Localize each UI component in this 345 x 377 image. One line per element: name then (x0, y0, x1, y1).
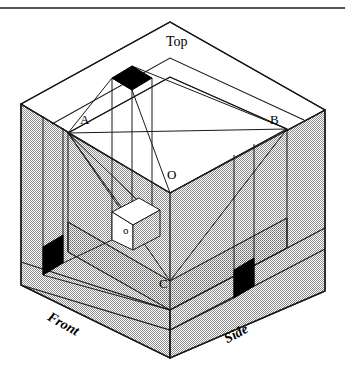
figure-canvas: Top Front Side A B O o C (0, 0, 345, 377)
point-label-a: A (80, 113, 89, 126)
point-label-b: B (270, 113, 279, 126)
point-label-o-outer: O (167, 168, 176, 181)
face-label-top: Top (166, 35, 188, 49)
point-label-c: C (159, 277, 168, 290)
point-label-o-inner: o (123, 225, 129, 236)
